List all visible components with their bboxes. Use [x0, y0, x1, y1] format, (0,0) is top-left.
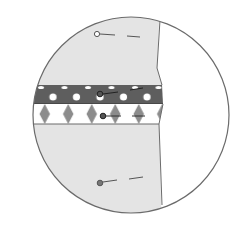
magnified-view	[0, 0, 243, 237]
sewing-diagram	[0, 0, 243, 237]
pin-head-icon	[97, 180, 103, 186]
light-trim-band	[0, 104, 163, 124]
dark-trim-band	[0, 85, 163, 104]
pin-head-icon	[97, 91, 103, 97]
pin-head-icon	[100, 113, 106, 119]
pin-head-icon	[94, 31, 99, 36]
